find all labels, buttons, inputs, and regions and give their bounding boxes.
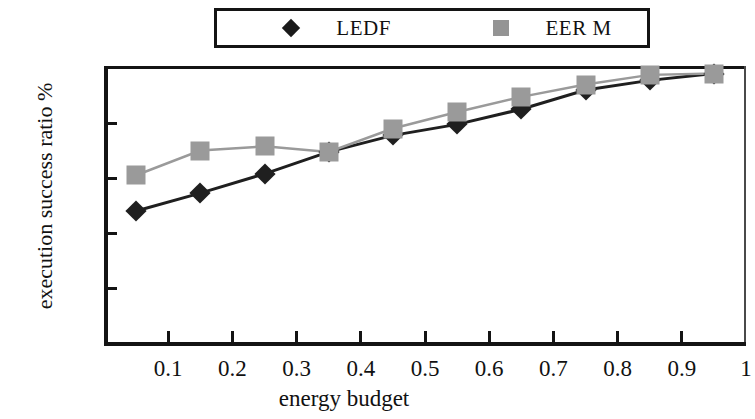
data-point-eerm (319, 142, 338, 161)
y-axis-title: execution success ratio % (32, 46, 58, 346)
x-tick-label: 0.7 (523, 356, 583, 382)
data-point-eerm (383, 119, 402, 138)
square-marker-icon (493, 20, 509, 36)
x-tick-label: 0.9 (652, 356, 712, 382)
data-point-eerm (448, 103, 467, 122)
x-tick-label: 0.1 (138, 356, 198, 382)
legend-label-eerm: EER M (546, 16, 612, 41)
legend-sample-ledf (252, 18, 330, 38)
legend-entry-eerm: EER M (462, 16, 612, 41)
data-point-eerm (640, 65, 659, 84)
data-point-eerm (127, 166, 146, 185)
chart-legend: LEDF EER M (214, 8, 650, 48)
data-point-eerm (576, 75, 595, 94)
x-tick-label: 0.5 (395, 356, 455, 382)
legend-entry-ledf: LEDF (252, 16, 391, 41)
legend-label-ledf: LEDF (336, 16, 391, 41)
data-point-eerm (255, 137, 274, 156)
x-tick-label: 0.8 (588, 356, 648, 382)
series-lines (104, 68, 746, 343)
data-point-eerm (191, 141, 210, 160)
x-tick-label: 0.2 (202, 356, 262, 382)
plot-area: 020406080100 0.10.20.30.40.50.60.70.80.9… (104, 68, 746, 343)
x-tick-label: 0.3 (267, 356, 327, 382)
series-line-ledf (136, 74, 714, 212)
series-line-eerm (136, 74, 714, 176)
data-point-eerm (704, 64, 723, 83)
legend-sample-eerm (462, 18, 540, 38)
data-point-eerm (512, 87, 531, 106)
x-tick-label: 0.4 (331, 356, 391, 382)
x-tick-label: 0.6 (459, 356, 519, 382)
diamond-marker-icon (282, 19, 300, 37)
x-axis-title: energy budget (104, 386, 584, 412)
x-tick-label: 1 (716, 356, 755, 382)
